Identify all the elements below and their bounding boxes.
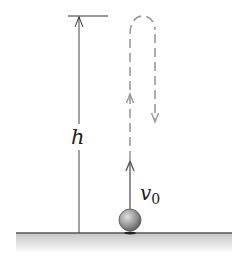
- velocity-subscript: 0: [151, 191, 160, 207]
- height-label: h: [71, 124, 85, 150]
- diagram-graphics: [0, 0, 249, 259]
- projectile-diagram: h v0: [0, 0, 249, 259]
- velocity-symbol: v: [140, 181, 151, 205]
- ball: [119, 209, 141, 235]
- trajectory-path: [127, 16, 159, 160]
- down-arrowhead-icon: [152, 113, 159, 122]
- initial-velocity-arrow: [126, 161, 134, 209]
- trajectory-apex-arc: [130, 16, 155, 34]
- initial-velocity-label: v0: [140, 182, 160, 210]
- ground: [16, 233, 232, 253]
